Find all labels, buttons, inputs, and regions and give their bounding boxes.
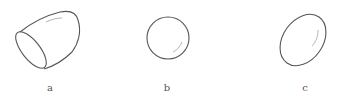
circle-outline	[147, 17, 189, 59]
label-c: c	[295, 82, 315, 93]
circle-highlight	[173, 42, 182, 52]
ellipse-highlight	[312, 30, 318, 46]
label-b: b	[157, 82, 177, 93]
figure-canvas: a b c	[0, 0, 338, 102]
shape-b-circle	[147, 17, 189, 59]
shape-a-cylinder	[10, 11, 79, 73]
ellipse-outline	[271, 6, 336, 75]
cylinder-end-ellipse	[10, 27, 51, 73]
cylinder-highlight	[46, 18, 62, 22]
shape-c-ellipse	[271, 6, 336, 75]
label-a: a	[40, 82, 60, 93]
